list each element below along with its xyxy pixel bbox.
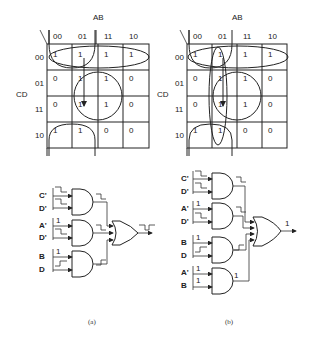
input-label-d-prime: D' (181, 187, 189, 196)
or-gate (112, 221, 138, 245)
signal-constant-1: 1 (56, 216, 61, 225)
cell: 0 (129, 100, 134, 109)
signal-step-up (55, 261, 67, 266)
kmap-a-row-label-01: 01 (35, 79, 44, 88)
cell: 1 (104, 100, 109, 109)
or-gate (253, 217, 281, 246)
cell: 0 (243, 126, 248, 135)
kmap-b-col-label-00: 00 (193, 32, 202, 41)
cell: 0 (268, 126, 273, 135)
cell: 0 (268, 74, 273, 83)
input-label-a-prime: A' (39, 221, 47, 230)
input-label-c-prime: C' (181, 174, 189, 183)
input-label-d-prime: D' (39, 204, 47, 213)
input-label-b: B (181, 238, 187, 247)
kmap-a-row-label-00: 00 (35, 53, 44, 62)
kmap-b: AB 00 01 11 10 CD 00 01 11 10 1 1 1 1 0 … (157, 13, 288, 156)
kmap-a: AB 00 01 11 10 CD 00 01 11 10 1 1 1 1 0 … (16, 13, 149, 156)
caption-b: (b) (225, 318, 234, 326)
cell: 1 (218, 126, 223, 135)
input-label-d: D (181, 251, 187, 260)
kmap-b-col-label-11: 11 (243, 32, 252, 41)
output-signal-step-down (96, 194, 106, 199)
output-glitch-signal (139, 225, 155, 230)
input-label-c-prime: C' (39, 191, 47, 200)
kmap-a-col-label-11: 11 (104, 32, 113, 41)
cell: 0 (104, 126, 109, 135)
input-label-d-prime: D' (39, 233, 47, 242)
kmap-b-col-label-01: 01 (218, 32, 227, 41)
kmap-a-row-label-11: 11 (35, 105, 44, 114)
cell: 0 (53, 100, 58, 109)
and-gate-1 (212, 173, 233, 199)
kmap-a-col-label-10: 10 (129, 32, 138, 41)
signal-constant-1: 1 (196, 276, 201, 285)
circuit-a: C' D' A' D' 1 B D 1 (39, 187, 155, 326)
cell: 0 (193, 74, 198, 83)
cell: 0 (193, 100, 198, 109)
cell: 1 (243, 50, 248, 59)
signal-constant-1: 1 (196, 199, 201, 208)
kmap-a-col-label-00: 00 (53, 32, 62, 41)
signal-constant-1: 1 (56, 247, 61, 256)
input-label-b: B (39, 252, 45, 261)
kmap-b-group-row00 (188, 46, 288, 68)
kmap-a-row-var: CD (16, 90, 28, 99)
input-label-a-prime: A' (181, 268, 189, 277)
signal-step-down (55, 187, 67, 192)
and-gate-1 (72, 189, 93, 215)
output-constant-1: 1 (234, 271, 239, 280)
cell: 1 (78, 50, 83, 59)
kmap-b-row-label-11: 11 (175, 105, 184, 114)
or-output-value: 1 (285, 219, 290, 228)
kmap-a-row-label-10: 10 (35, 131, 44, 140)
kmap-b-row-label-01: 01 (175, 79, 184, 88)
kmap-a-group-row00 (49, 46, 149, 68)
cell: 0 (268, 100, 273, 109)
cell: 1 (78, 100, 83, 109)
kmap-b-row-var: CD (157, 90, 169, 99)
kmap-a-corner-diagonal (40, 30, 47, 44)
cell: 1 (218, 100, 223, 109)
cell: 0 (53, 74, 58, 83)
and-gate-3 (212, 237, 233, 263)
cell: 1 (243, 100, 248, 109)
and-gate-3 (72, 251, 93, 277)
kmap-b-row-label-10: 10 (175, 131, 184, 140)
cell: 1 (104, 50, 109, 59)
and-gate-2 (212, 203, 233, 229)
kmap-b-col-label-10: 10 (268, 32, 277, 41)
input-label-d: D (39, 265, 45, 274)
and-gate-2 (72, 220, 93, 246)
cell: 1 (129, 50, 134, 59)
cell: 1 (78, 126, 83, 135)
cell: 1 (268, 50, 273, 59)
kmap-a-col-var: AB (93, 13, 104, 22)
and-gate-4 (212, 268, 233, 294)
karnaugh-hazard-figure: AB 00 01 11 10 CD 00 01 11 10 1 1 1 1 0 … (0, 0, 313, 341)
cell: 1 (104, 74, 109, 83)
kmap-b-row-label-00: 00 (175, 53, 184, 62)
cell: 0 (129, 74, 134, 83)
cell: 1 (243, 74, 248, 83)
circuit-b: C' D' A' D' 1 B D 1 (181, 171, 296, 326)
input-label-b: B (181, 281, 187, 290)
input-label-d-prime: D' (181, 217, 189, 226)
caption-a: (a) (88, 318, 96, 326)
signal-constant-1: 1 (196, 264, 201, 273)
input-label-a-prime: A' (181, 204, 189, 213)
kmap-b-col-var: AB (232, 13, 243, 22)
kmap-a-col-label-01: 01 (78, 32, 87, 41)
cell: 0 (129, 126, 134, 135)
signal-constant-1: 1 (196, 233, 201, 242)
